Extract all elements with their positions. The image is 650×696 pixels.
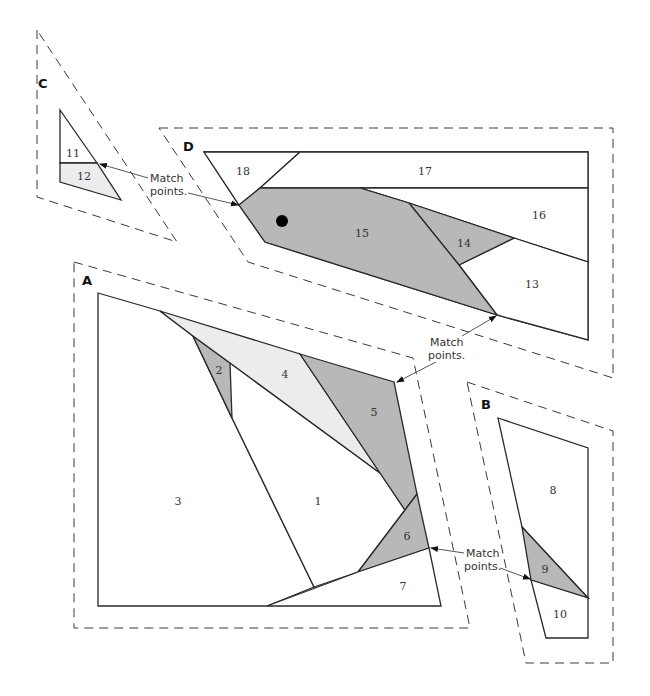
match-ab-line1: Match	[466, 547, 500, 560]
piece-18-number: 18	[236, 165, 250, 178]
match-cd-line1: Match	[150, 172, 184, 185]
match-ab-line2: points.	[464, 560, 501, 573]
section-a-label: A	[82, 273, 92, 288]
match-cd-arrow-right	[188, 193, 238, 205]
piece-9-number: 9	[542, 563, 549, 576]
piece-14-number: 14	[457, 237, 471, 250]
piece-5-number: 5	[371, 406, 378, 419]
piece-15-number: 15	[355, 227, 369, 240]
foundation-pattern-diagram: C 11 12 D 18 17 16 14 15 13 A 1	[0, 0, 650, 696]
piece-12-number: 12	[77, 170, 91, 183]
piece-16-number: 16	[532, 209, 546, 222]
piece-6-number: 6	[404, 530, 411, 543]
piece-13-number: 13	[525, 278, 539, 291]
piece-8-number: 8	[550, 484, 557, 497]
piece-17-number: 17	[418, 165, 432, 178]
section-c-label: C	[38, 76, 48, 91]
match-ab-arrow-left	[431, 548, 464, 553]
match-ab-arrow-right	[500, 568, 530, 579]
section-d-label: D	[183, 139, 194, 154]
section-c-seam-allowance	[37, 30, 177, 242]
match-cd-arrow-left	[100, 164, 148, 178]
match-points-a-d: Match points.	[397, 316, 496, 382]
placement-dot-icon	[276, 215, 288, 227]
piece-1-number: 1	[315, 495, 322, 508]
piece-11-number: 11	[66, 147, 80, 160]
piece-2-number: 2	[216, 364, 223, 377]
match-cd-line2: points.	[150, 185, 187, 198]
match-ad-line1: Match	[430, 336, 464, 349]
section-b: B 8 9 10	[467, 382, 613, 663]
piece-10-number: 10	[553, 608, 567, 621]
section-c: C 11 12	[37, 30, 177, 242]
section-a: A 1 2 3 4 5 6 7	[74, 262, 470, 628]
section-b-label: B	[481, 397, 491, 412]
match-ad-arrow-down	[397, 362, 436, 382]
match-ad-arrow-up	[462, 316, 496, 336]
piece-4-number: 4	[282, 368, 289, 381]
piece-3-number: 3	[175, 495, 182, 508]
match-points-a-b: Match points.	[431, 547, 530, 579]
piece-7-number: 7	[400, 580, 407, 593]
match-ad-line2: points.	[428, 349, 465, 362]
